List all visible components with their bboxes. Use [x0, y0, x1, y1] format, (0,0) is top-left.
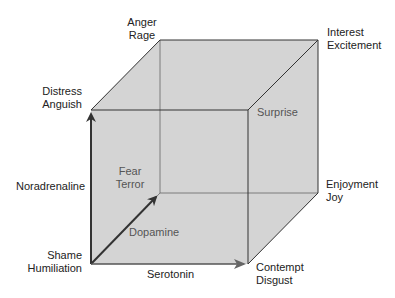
shame-line2: Humiliation: [10, 262, 82, 275]
label-dopamine: Dopamine: [129, 226, 179, 239]
interest-line2: Excitement: [327, 39, 381, 52]
label-anger: Anger Rage: [117, 16, 167, 42]
enjoyment-line1: Enjoyment: [326, 178, 378, 191]
label-contempt: Contempt Disgust: [256, 261, 304, 287]
label-noradrenaline: Noradrenaline: [16, 180, 85, 193]
fear-line2: Terror: [105, 178, 155, 191]
enjoyment-line2: Joy: [326, 191, 378, 204]
anger-line2: Rage: [117, 29, 167, 42]
fear-line1: Fear: [105, 165, 155, 178]
label-serotonin: Serotonin: [147, 268, 194, 281]
contempt-line1: Contempt: [256, 261, 304, 274]
surprise-line1: Surprise: [257, 106, 298, 119]
shame-line1: Shame: [10, 249, 82, 262]
serotonin-text: Serotonin: [147, 268, 194, 280]
label-shame: Shame Humiliation: [10, 249, 82, 275]
distress-line2: Anguish: [20, 98, 82, 111]
label-enjoyment: Enjoyment Joy: [326, 178, 378, 204]
contempt-line2: Disgust: [256, 274, 304, 287]
label-interest: Interest Excitement: [327, 26, 381, 52]
anger-line1: Anger: [117, 16, 167, 29]
noradrenaline-text: Noradrenaline: [16, 180, 85, 192]
label-surprise: Surprise: [257, 106, 298, 119]
label-fear: Fear Terror: [105, 165, 155, 191]
label-distress: Distress Anguish: [20, 85, 82, 111]
distress-line1: Distress: [20, 85, 82, 98]
interest-line1: Interest: [327, 26, 381, 39]
dopamine-text: Dopamine: [129, 226, 179, 238]
